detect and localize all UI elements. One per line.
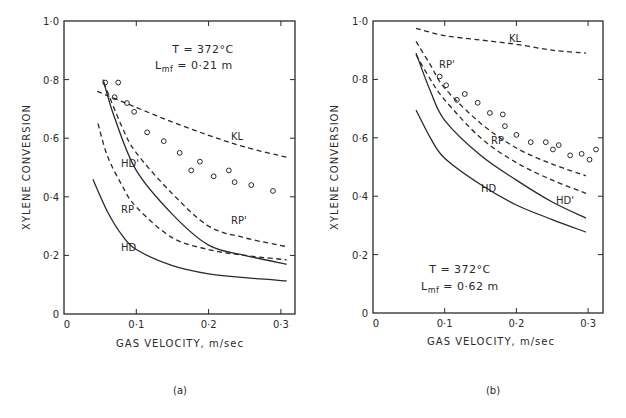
data-point: [556, 143, 561, 148]
y-axis-title: XYLENE CONVERSION: [21, 104, 32, 230]
x-axis-title: GAS VELOCITY, m/sec: [116, 338, 244, 349]
panel-b-chart: 00·20·40·60·81·0 00·10·20·3 XYLENE CONVE…: [329, 16, 603, 396]
panel-label-a: (a): [173, 385, 187, 396]
data-point: [116, 80, 121, 85]
curve-rp: [98, 124, 287, 260]
curve-hd-prime: [103, 80, 287, 265]
data-point: [249, 183, 254, 188]
data-point: [444, 83, 449, 88]
y-tick-label: 0·6: [43, 133, 59, 144]
x-tick-label: 0·3: [580, 318, 596, 329]
temperature-annotation: T = 372°C: [171, 43, 234, 56]
temperature-annotation: T = 372°C: [428, 263, 491, 276]
data-point: [145, 130, 150, 135]
panel-a-chart: 00·20·40·60·81·0 00·10·20·3 XYLENE CONVE…: [21, 16, 295, 396]
data-point: [211, 174, 216, 179]
y-tick-label: 0·4: [43, 192, 59, 203]
data-point: [528, 140, 533, 145]
curve-label-hd: HD: [481, 183, 497, 194]
y-tick-label: 0·6: [352, 133, 368, 144]
curve-label-hd-prime: HD': [121, 158, 139, 169]
y-tick-label: 0: [362, 308, 368, 319]
data-point: [487, 111, 492, 116]
curve-label-hd-prime: HD': [556, 195, 574, 206]
data-point: [271, 189, 276, 194]
figure: 00·20·40·60·81·0 00·10·20·3 XYLENE CONVE…: [0, 0, 626, 418]
x-tick-labels: 00·10·20·3: [373, 318, 596, 329]
data-point: [198, 159, 203, 164]
bed-height-annotation: Lmf = 0·62 m: [421, 280, 499, 295]
y-tick-label: 0·4: [352, 191, 368, 202]
data-point: [568, 153, 573, 158]
data-point: [226, 168, 231, 173]
data-point: [132, 109, 137, 114]
y-axis-title: XYLENE CONVERSION: [329, 104, 340, 230]
bed-height-annotation: Lmf = 0·21 m: [155, 59, 233, 74]
curve-kl: [416, 28, 586, 53]
curve-hd: [416, 110, 586, 232]
data-point: [594, 147, 599, 152]
curve-hd: [93, 179, 287, 281]
data-point: [503, 124, 508, 129]
curve-label-rp: RP: [121, 204, 134, 215]
data-point: [514, 132, 519, 137]
data-point: [232, 180, 237, 185]
x-tick-label: 0: [64, 319, 70, 330]
data-point: [437, 74, 442, 79]
x-tick-label: 0·2: [508, 318, 524, 329]
data-point: [161, 139, 166, 144]
curve-label-rp-prime: RP': [439, 59, 455, 70]
experimental-points: [103, 80, 276, 193]
panel-label-b: (b): [486, 385, 500, 396]
x-tick-label: 0: [373, 318, 379, 329]
x-tick-label: 0·1: [128, 319, 144, 330]
curve-label-rp-prime: RP': [231, 215, 247, 226]
data-point: [177, 150, 182, 155]
y-tick-label: 0·2: [352, 250, 368, 261]
data-point: [587, 157, 592, 162]
curve-label-kl: KL: [509, 33, 522, 44]
x-tick-labels: 00·10·20·3: [64, 319, 289, 330]
data-point: [189, 168, 194, 173]
data-point: [543, 140, 548, 145]
x-axis-title: GAS VELOCITY, m/sec: [427, 336, 555, 347]
y-tick-label: 0·2: [43, 250, 59, 261]
curve-label-rp: RP: [491, 135, 504, 146]
y-tick-label: 0·8: [43, 75, 59, 86]
data-point: [462, 92, 467, 97]
curve-label-kl: KL: [231, 131, 244, 142]
y-tick-label: 0: [53, 309, 59, 320]
y-tick-label: 0·8: [352, 74, 368, 85]
y-tick-labels: 00·20·40·60·81·0: [43, 16, 59, 320]
y-tick-label: 1·0: [43, 16, 59, 27]
data-point: [500, 112, 505, 117]
x-tick-label: 0·1: [437, 318, 453, 329]
x-tick-label: 0·2: [201, 319, 217, 330]
data-point: [475, 100, 480, 105]
y-tick-labels: 00·20·40·60·81·0: [352, 16, 368, 319]
curve-label-hd: HD: [121, 242, 137, 253]
y-tick-label: 1·0: [352, 16, 368, 27]
data-point: [579, 151, 584, 156]
x-tick-label: 0·3: [273, 319, 289, 330]
data-point: [551, 147, 556, 152]
